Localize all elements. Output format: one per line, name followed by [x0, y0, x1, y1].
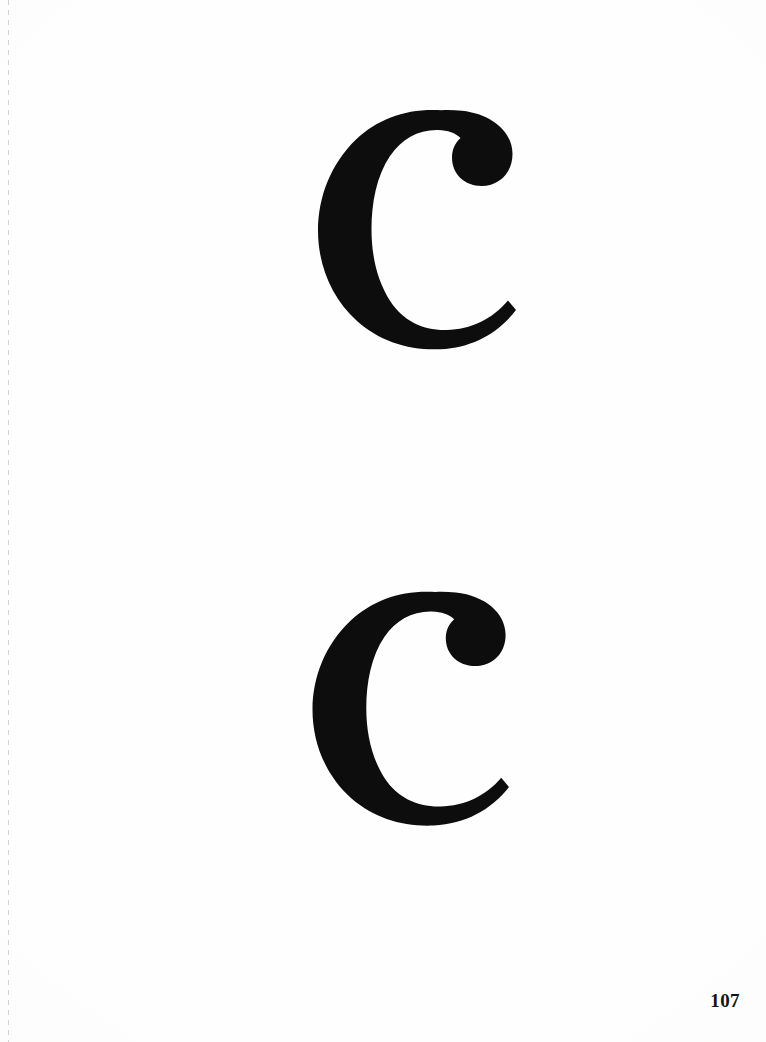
book-page: 107: [0, 0, 766, 1042]
letter-c-glyph-icon: [312, 106, 520, 354]
letter-specimen-c-lower: [306, 588, 514, 830]
letter-c-glyph-icon: [306, 588, 514, 830]
page-number: 107: [710, 991, 740, 1010]
letter-specimen-c-upper: [312, 106, 520, 354]
dashed-trim-guide: [8, 0, 9, 1042]
